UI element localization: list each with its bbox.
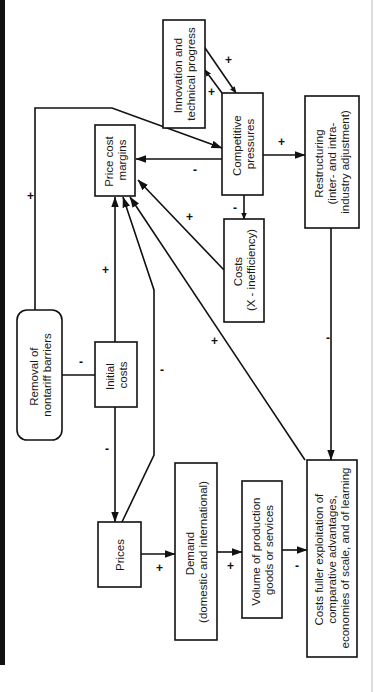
node-demand-line2: (domestic and international) [197,481,209,623]
node-competitive-line2: pressures [244,119,256,170]
node-costs-fuller-line2: comparative advantages, [326,495,338,624]
node-volume-line2: goods or services [263,505,275,595]
svg-text:Price cost margins: Price cost margins [103,133,128,187]
node-prices-line1: Prices [114,539,126,571]
node-competitive-line1: Competitive [231,115,243,176]
node-demand-line1: Demand [184,532,196,575]
svg-text:Innovation and technical: Innovation and technical progress [172,27,197,121]
sign-initial-to-margins: + [102,263,109,277]
node-restructuring-line3: industry adjustment) [339,110,351,214]
page-binding-bar [0,0,5,665]
node-restructuring-line1: Restructuring [313,129,325,197]
sign-initial-to-prices: - [105,442,109,456]
edge-costs-x-to-margins [138,180,224,270]
sign-innovation-to-competitive: + [225,53,232,67]
edge-costs-fuller-to-margins [130,197,305,460]
sign-restructuring-to-costs-fuller: - [326,331,330,345]
node-costs-x-line1: Costs [232,257,244,287]
node-innovation-line2: technical progress [185,27,197,121]
svg-text:Removal of nontariff bar: Removal of nontariff barriers [28,333,53,417]
sign-costs-x-to-margins: + [186,210,193,224]
causal-diagram: + - + + - + - + + - - + - + + - Innovati… [0,0,374,692]
svg-text:Volume of production goo: Volume of production goods or services [250,494,275,605]
node-innovation: Innovation and technical progress [163,20,205,128]
node-margins-line2: margins [116,139,128,180]
node-restructuring-line2: (inter- and intra- [326,123,338,205]
sign-volume-to-costs-fuller: - [295,559,299,573]
sign-removal-to-competitive: + [27,189,34,203]
node-costs-x-line2: (X - inefficiency) [245,229,257,311]
sign-prices-to-margins: - [160,363,164,377]
svg-text:Costs fuller exploitation of: Costs fuller exploitation of comparative… [313,468,351,649]
svg-text:Competitive pressures: Competitive pressures [231,112,256,176]
node-competitive-pressures: Competitive pressures [222,93,263,195]
sign-prices-to-demand: + [156,561,163,575]
sign-competitive-to-costs-x: - [233,201,237,215]
node-initial-line2: costs [117,361,129,388]
node-volume-of-production: Volume of production goods or services [242,481,282,618]
sign-competitive-to-margins: - [193,163,197,177]
node-initial-line1: Initial [104,363,116,390]
node-volume-line1: Volume of production [250,498,262,606]
node-restructuring: Restructuring (inter- and intra- industr… [305,96,359,228]
sign-costs-fuller-to-margins: + [211,334,218,348]
node-costs-x-inefficiency: Costs (X - inefficiency) [224,219,264,322]
node-costs-fuller-line1: Costs fuller exploitation of [313,493,325,625]
node-removal-line2: nontariff barriers [41,333,53,417]
node-innovation-line1: Innovation and [172,38,184,113]
node-removal-of-nontariff-barriers: Removal of nontariff barriers [17,310,62,440]
node-prices: Prices [98,522,141,587]
sign-competitive-to-innovation: + [208,85,215,99]
svg-text:Initial costs: Initial costs [104,360,129,390]
svg-text:Prices: Prices [114,539,126,571]
node-costs-fuller-exploitation: Costs fuller exploitation of comparative… [307,460,357,657]
node-initial-costs: Initial costs [95,342,137,407]
node-removal-line1: Removal of [28,347,40,406]
node-price-cost-margins: Price cost margins [95,125,135,196]
sign-competitive-to-restructuring: + [278,135,285,149]
node-demand: Demand (domestic and international) [175,463,217,640]
node-costs-fuller-line3: economies of scale, and of learning [339,468,351,649]
sign-demand-to-volume: + [227,559,234,573]
node-margins-line1: Price cost [103,136,115,187]
sign-removal-to-initial: - [79,355,83,369]
